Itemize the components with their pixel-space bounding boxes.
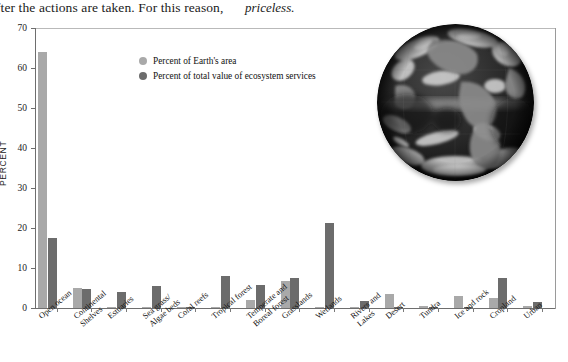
legend-item: Percent of Earth's area bbox=[139, 54, 316, 67]
y-axis-tick-label: 30 bbox=[18, 183, 28, 193]
earth-globe-graphic bbox=[377, 24, 534, 181]
body-text-fragment-1: fter the actions are taken. For this rea… bbox=[0, 0, 223, 16]
bar-value bbox=[325, 223, 334, 308]
chart-legend: Percent of Earth's area Percent of total… bbox=[139, 54, 316, 84]
satellite-image-of-earth bbox=[377, 24, 534, 181]
y-axis-tick-label: 50 bbox=[18, 103, 28, 113]
bar-group bbox=[315, 223, 334, 308]
legend-label: Percent of Earth's area bbox=[153, 56, 237, 66]
y-axis-tick-label: 20 bbox=[18, 223, 28, 233]
y-axis-tick-label: 0 bbox=[22, 303, 27, 313]
legend-swatch-area bbox=[139, 57, 147, 65]
bar-area bbox=[38, 52, 47, 308]
legend-swatch-value bbox=[139, 72, 147, 80]
bar-group bbox=[38, 52, 57, 308]
legend-item: Percent of total value of ecosystem serv… bbox=[139, 69, 316, 82]
body-text-fragment-2-italic: priceless. bbox=[245, 0, 294, 16]
y-axis-tick-label: 10 bbox=[18, 263, 28, 273]
legend-label: Percent of total value of ecosystem serv… bbox=[153, 71, 316, 81]
y-axis-title: PERCENT bbox=[0, 141, 8, 186]
bar-chart: 010203040506070 PERCENT Percent of Earth… bbox=[0, 18, 568, 362]
y-axis-tick-label: 70 bbox=[18, 23, 28, 33]
y-axis-tick-label: 60 bbox=[18, 63, 28, 73]
y-axis-tick-label: 40 bbox=[18, 143, 28, 153]
bar-area bbox=[73, 288, 82, 308]
